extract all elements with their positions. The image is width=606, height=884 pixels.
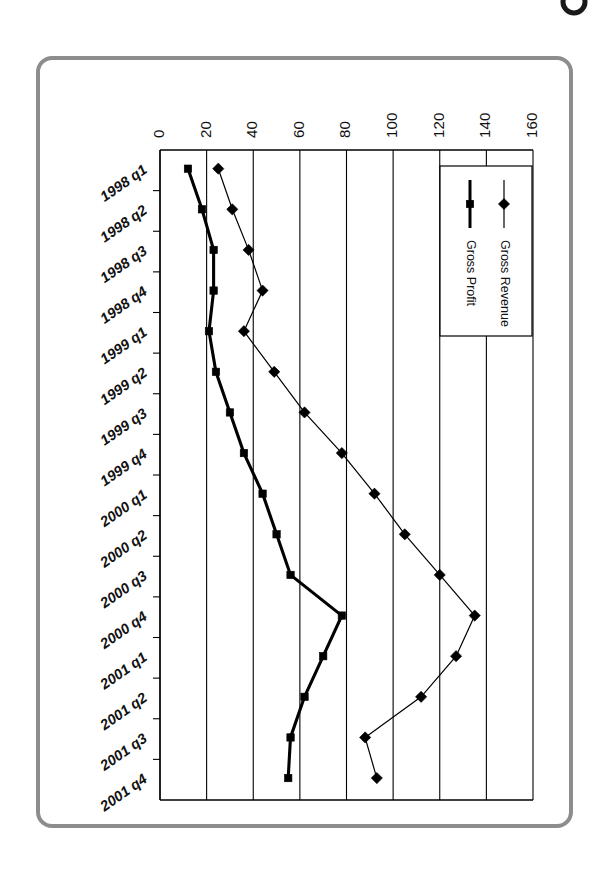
diamond-marker — [243, 244, 254, 255]
value-tick-label: 40 — [243, 121, 260, 138]
category-tick-label: 1999 q4 — [97, 446, 150, 490]
category-tick-label: 2001 q3 — [96, 730, 150, 774]
diamond-marker — [213, 163, 224, 174]
value-tick-label: 140 — [476, 112, 493, 138]
square-marker — [205, 327, 212, 334]
category-tick-label: 2001 q2 — [96, 689, 150, 733]
square-marker — [287, 734, 294, 741]
square-marker — [273, 531, 280, 538]
value-tick-label: 160 — [523, 112, 540, 138]
category-tick-label: 2000 q1 — [96, 486, 150, 530]
value-tick-label: 120 — [430, 112, 447, 138]
category-tick-label: 2000 q2 — [96, 527, 150, 571]
category-axis-tick-labels: 1998 q11998 q21998 q31998 q41999 q11999 … — [96, 161, 150, 815]
square-marker — [319, 652, 326, 659]
value-tick-label: 100 — [383, 112, 400, 138]
series-gross-profit — [184, 165, 345, 782]
square-marker — [212, 368, 219, 375]
category-tick-label: 1998 q3 — [97, 242, 150, 286]
category-ticks-group — [153, 191, 160, 760]
legend-box — [440, 166, 532, 336]
legend-label: Gross Revenue — [498, 240, 512, 327]
diamond-marker — [269, 366, 280, 377]
category-tick-label: 1999 q1 — [97, 324, 150, 368]
square-marker — [184, 165, 191, 172]
diamond-marker — [257, 285, 268, 296]
square-marker — [259, 490, 266, 497]
square-marker — [301, 693, 308, 700]
square-marker — [287, 571, 294, 578]
rotated-line-chart: 020406080100120140160 1998 q11998 q21998… — [0, 0, 606, 884]
square-marker — [198, 206, 205, 213]
square-marker — [466, 200, 473, 207]
square-marker — [240, 449, 247, 456]
value-tick-label: 80 — [336, 121, 353, 138]
diamond-marker — [371, 772, 382, 783]
square-marker — [285, 774, 292, 781]
square-marker — [338, 612, 345, 619]
value-axis-tick-labels: 020406080100120140160 — [150, 112, 540, 138]
value-tick-label: 20 — [197, 121, 214, 138]
category-tick-label: 2001 q1 — [96, 649, 150, 693]
legend-label: Gross Profit — [464, 240, 478, 307]
category-tick-label: 1999 q3 — [97, 405, 150, 449]
diamond-marker — [360, 732, 371, 743]
category-tick-label: 2001 q4 — [96, 771, 150, 815]
square-marker — [210, 246, 217, 253]
series-line — [188, 169, 342, 778]
category-tick-label: 2000 q3 — [96, 567, 150, 611]
category-tick-label: 1999 q2 — [97, 364, 150, 408]
data-series-group — [184, 163, 480, 784]
value-tick-label: 0 — [150, 129, 167, 138]
category-tick-label: 1998 q2 — [97, 202, 150, 246]
chart-legend[interactable]: Gross RevenueGross Profit — [440, 166, 532, 336]
square-marker — [210, 287, 217, 294]
category-tick-label: 2000 q4 — [96, 608, 150, 652]
diamond-marker — [227, 204, 238, 215]
diamond-marker — [369, 488, 380, 499]
category-tick-label: 1998 q4 — [97, 283, 150, 327]
diamond-marker — [238, 326, 249, 337]
chart-canvas: 020406080100120140160 1998 q11998 q21998… — [0, 0, 606, 884]
square-marker — [226, 409, 233, 416]
category-tick-label: 1998 q1 — [97, 161, 150, 205]
value-tick-label: 60 — [290, 121, 307, 138]
